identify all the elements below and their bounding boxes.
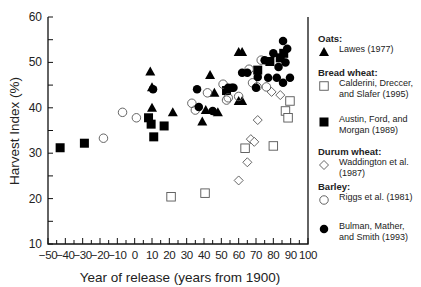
legend-group-title: Barley: bbox=[318, 181, 421, 192]
filled-square-marker bbox=[80, 139, 89, 148]
legend-group-title: Durum wheat: bbox=[318, 146, 421, 157]
open-diamond-marker bbox=[267, 87, 276, 96]
filled-circle-marker bbox=[269, 49, 278, 58]
legend-label: Austin, Ford, and Morgan (1989) bbox=[339, 114, 421, 136]
open-circle-marker bbox=[99, 134, 108, 143]
filled-circle-marker bbox=[149, 85, 158, 94]
x-tick-label: −20 bbox=[91, 249, 109, 261]
series-filled-circle bbox=[149, 37, 294, 115]
open-diamond-marker bbox=[243, 158, 252, 167]
legend-group: Oats:Lawes (1977) bbox=[318, 33, 421, 59]
filled-circle-marker bbox=[208, 107, 217, 116]
legend-entry: Riggs et al. (1981) bbox=[318, 192, 421, 207]
legend-marker-icon bbox=[318, 45, 332, 59]
x-tick-label: −10 bbox=[108, 249, 126, 261]
legend-label: Bulman, Mather, and Smith (1993) bbox=[339, 221, 421, 243]
filled-circle-marker bbox=[252, 84, 261, 93]
legend-marker-icon bbox=[318, 158, 332, 172]
x-tick-label: 40 bbox=[198, 249, 210, 261]
filled-circle-marker bbox=[281, 58, 290, 67]
legend-entry: Lawes (1977) bbox=[318, 44, 421, 59]
filled-circle-marker bbox=[320, 225, 329, 234]
x-tick-label: −50 bbox=[39, 249, 57, 261]
filled-triangle-marker bbox=[168, 107, 178, 116]
open-circle-marker bbox=[222, 96, 231, 105]
open-square-marker bbox=[201, 189, 210, 198]
open-diamond-marker bbox=[276, 91, 285, 100]
y-tick-label: 50 bbox=[29, 55, 43, 69]
x-tick-label: 100 bbox=[299, 249, 317, 261]
plot-frame bbox=[48, 17, 308, 244]
data-points bbox=[56, 37, 295, 201]
y-tick-label: 20 bbox=[29, 192, 43, 206]
filled-square-marker bbox=[56, 143, 65, 152]
filled-circle-marker bbox=[279, 79, 288, 88]
axes bbox=[48, 17, 308, 244]
filled-triangle-marker bbox=[145, 66, 155, 75]
filled-square-marker bbox=[147, 120, 156, 129]
legend-group-title: Oats: bbox=[318, 33, 421, 44]
filled-circle-marker bbox=[193, 85, 202, 94]
open-circle-marker bbox=[262, 83, 271, 92]
open-diamond-marker bbox=[234, 176, 243, 185]
filled-square-marker bbox=[320, 118, 329, 127]
legend-group: Barley:Riggs et al. (1981) bbox=[318, 181, 421, 207]
legend-group: Bread wheat:Calderini, Dreccer, and Slaf… bbox=[318, 67, 421, 136]
legend: Oats:Lawes (1977)Bread wheat:Calderini, … bbox=[318, 33, 421, 243]
x-tick-label: 20 bbox=[163, 249, 175, 261]
filled-circle-marker bbox=[286, 74, 295, 83]
filled-circle-marker bbox=[279, 37, 288, 46]
open-square-marker bbox=[167, 193, 176, 202]
x-tick-label: 50 bbox=[215, 249, 227, 261]
open-circle-marker bbox=[320, 196, 329, 205]
filled-circle-marker bbox=[253, 73, 262, 82]
legend-label: Lawes (1977) bbox=[339, 44, 421, 55]
x-tick-label: 10 bbox=[146, 249, 158, 261]
filled-circle-marker bbox=[283, 45, 292, 54]
filled-triangle-marker bbox=[319, 47, 329, 56]
legend-marker-icon bbox=[318, 193, 332, 207]
filled-circle-marker bbox=[274, 63, 283, 72]
filled-circle-marker bbox=[264, 74, 273, 83]
x-tick-label: 70 bbox=[250, 249, 262, 261]
y-axis-title: Harvest Index (%) bbox=[7, 77, 22, 185]
legend-entry: Calderini, Dreccer, and Slafer (1995) bbox=[318, 78, 421, 100]
legend-label: Waddington et al. (1987) bbox=[339, 157, 421, 179]
y-axis: 102030405060 bbox=[29, 10, 53, 251]
filled-circle-marker bbox=[243, 69, 252, 78]
filled-triangle-marker bbox=[197, 116, 207, 125]
series-open-circle bbox=[99, 56, 270, 143]
x-axis: −50−40−30−20−100102030405060708090100 bbox=[39, 238, 317, 261]
x-tick-label: 0 bbox=[132, 249, 138, 261]
filled-triangle-marker bbox=[205, 70, 215, 79]
y-tick-label: 60 bbox=[29, 10, 43, 24]
legend-entry: Austin, Ford, and Morgan (1989) bbox=[318, 114, 421, 136]
y-tick-label: 40 bbox=[29, 101, 43, 115]
legend-marker-icon bbox=[318, 115, 332, 129]
x-tick-label: 90 bbox=[285, 249, 297, 261]
y-tick-label: 30 bbox=[29, 146, 43, 160]
filled-square-marker bbox=[160, 121, 169, 130]
open-square-marker bbox=[320, 82, 329, 91]
filled-circle-marker bbox=[260, 56, 269, 65]
filled-square-marker bbox=[149, 132, 158, 141]
series-open-square bbox=[167, 97, 294, 201]
open-square-marker bbox=[241, 144, 250, 153]
open-square-marker bbox=[269, 142, 278, 151]
legend-group: Bulman, Mather, and Smith (1993) bbox=[318, 221, 421, 243]
x-tick-label: 30 bbox=[181, 249, 193, 261]
legend-marker-icon bbox=[318, 222, 332, 236]
filled-circle-marker bbox=[195, 103, 204, 112]
x-axis-title: Year of release (years from 1900) bbox=[80, 270, 281, 285]
legend-group: Durum wheat:Waddington et al. (1987) bbox=[318, 146, 421, 179]
filled-triangle-marker bbox=[147, 103, 157, 112]
legend-entry: Waddington et al. (1987) bbox=[318, 157, 421, 179]
legend-entry: Bulman, Mather, and Smith (1993) bbox=[318, 221, 421, 243]
open-square-marker bbox=[286, 97, 295, 106]
filled-circle-marker bbox=[227, 84, 236, 93]
legend-marker-icon bbox=[318, 79, 332, 93]
x-tick-label: −40 bbox=[56, 249, 74, 261]
open-diamond-marker bbox=[320, 161, 329, 170]
legend-label: Calderini, Dreccer, and Slafer (1995) bbox=[339, 78, 421, 100]
x-tick-label: 60 bbox=[233, 249, 245, 261]
